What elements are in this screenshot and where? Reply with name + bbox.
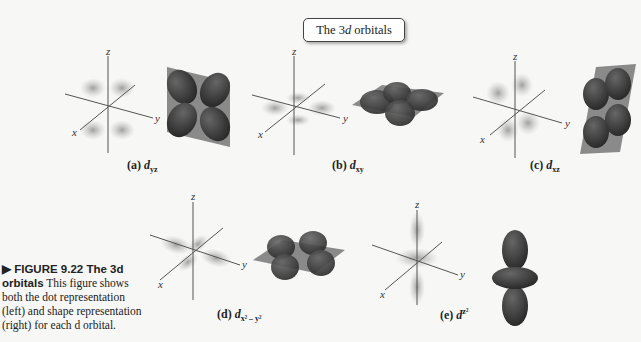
figure-caption: ▶ FIGURE 9.22 The 3d orbitals This figur… [2, 262, 147, 332]
shape-dxy [352, 75, 447, 130]
svg-text:z: z [512, 50, 518, 62]
svg-text:y: y [241, 258, 247, 270]
shape-dz2 [490, 228, 540, 338]
header-text-suffix: orbitals [351, 23, 392, 37]
caption-a: (a) dyz [127, 158, 158, 174]
svg-text:y: y [342, 112, 348, 124]
dot-diagram-dz2: z y x [370, 210, 470, 310]
caption-d: (d) dx² – y² [217, 307, 261, 323]
dot-diagram-dxz: z y x [470, 55, 570, 165]
dot-diagram-dyz: z y x [60, 50, 160, 160]
svg-text:x: x [257, 128, 263, 140]
caption-b: (b) dxy [332, 158, 364, 174]
svg-text:z: z [190, 190, 196, 202]
shape-dxz [578, 62, 638, 157]
axis-z: z [105, 45, 111, 57]
dot-diagram-dx2y2: z y x [148, 200, 248, 310]
svg-text:x: x [379, 288, 385, 300]
caption-c: (c) dxz [530, 158, 560, 174]
svg-text:x: x [479, 133, 485, 145]
svg-text:x: x [71, 126, 77, 138]
shape-dyz [165, 62, 235, 152]
shape-dx2y2 [253, 225, 348, 285]
svg-text:y: y [154, 112, 160, 124]
header-text: The 3 [316, 23, 345, 37]
svg-text:z: z [414, 198, 420, 210]
svg-text:z: z [291, 45, 297, 57]
svg-text:x: x [157, 278, 163, 290]
figure-header-label: The 3d orbitals [303, 18, 405, 42]
dot-diagram-dxy: z y x [250, 50, 350, 160]
svg-text:y: y [459, 268, 465, 280]
caption-e: (e) dz² [440, 307, 468, 323]
svg-text:y: y [564, 117, 570, 129]
